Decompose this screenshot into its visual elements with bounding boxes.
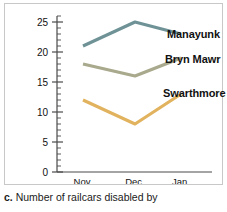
series-label-bryn-mawr: Bryn Mawr: [165, 53, 220, 65]
chart-figure: 0510152025Nov.Dec.Jan. Manayunk Bryn Maw…: [0, 0, 227, 212]
svg-text:Dec.: Dec.: [125, 176, 145, 184]
figure-caption: c. Number of railcars disabled by: [4, 191, 227, 203]
svg-text:15: 15: [37, 77, 49, 88]
series-label-swarthmore: Swarthmore: [163, 87, 226, 99]
svg-text:5: 5: [42, 137, 48, 148]
svg-text:10: 10: [37, 107, 49, 118]
chart-frame: 0510152025Nov.Dec.Jan. Manayunk Bryn Maw…: [4, 3, 223, 185]
svg-text:25: 25: [37, 17, 49, 28]
caption-letter: c.: [4, 191, 13, 203]
caption-text: Number of railcars disabled by: [16, 191, 158, 203]
svg-text:20: 20: [37, 47, 49, 58]
svg-text:Jan.: Jan.: [172, 176, 190, 184]
svg-text:0: 0: [42, 167, 48, 178]
series-label-manayunk: Manayunk: [167, 28, 220, 40]
svg-text:Nov.: Nov.: [74, 176, 93, 184]
